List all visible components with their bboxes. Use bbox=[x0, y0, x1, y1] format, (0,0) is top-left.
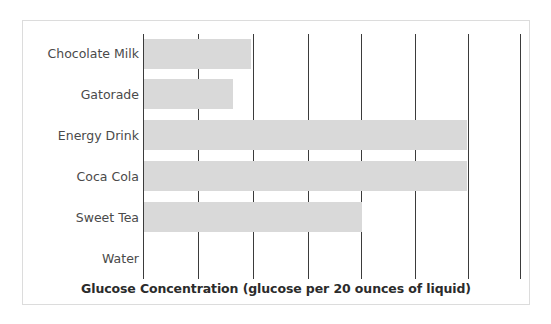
bar-sweet-tea bbox=[144, 202, 362, 232]
category-label-energy-drink: Energy Drink bbox=[23, 129, 139, 143]
x-axis-title: Glucose Concentration (glucose per 20 ou… bbox=[23, 281, 529, 296]
chart-figure: Chocolate Milk Gatorade Energy Drink Coc… bbox=[0, 0, 551, 324]
category-label-gatorade: Gatorade bbox=[23, 88, 139, 102]
category-label-sweet-tea: Sweet Tea bbox=[23, 211, 139, 225]
category-axis-labels: Chocolate Milk Gatorade Energy Drink Coc… bbox=[23, 34, 139, 279]
bars-layer bbox=[143, 34, 521, 279]
bar-chocolate-milk bbox=[144, 39, 251, 69]
category-label-water: Water bbox=[23, 252, 139, 266]
category-label-coca-cola: Coca Cola bbox=[23, 170, 139, 184]
chart-frame: Chocolate Milk Gatorade Energy Drink Coc… bbox=[22, 20, 530, 305]
bar-energy-drink bbox=[144, 120, 467, 150]
category-label-chocolate-milk: Chocolate Milk bbox=[23, 47, 139, 61]
bar-gatorade bbox=[144, 79, 233, 109]
bar-coca-cola bbox=[144, 161, 467, 191]
